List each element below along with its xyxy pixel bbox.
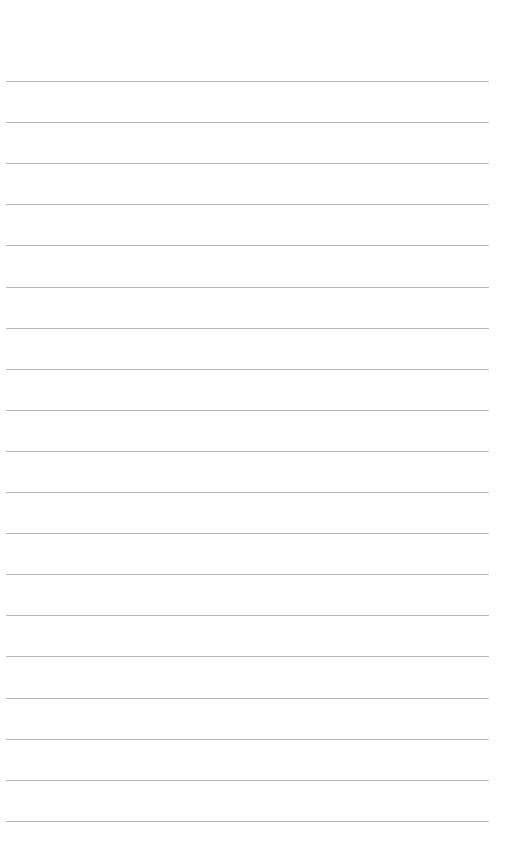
ruled-line <box>6 492 489 493</box>
ruled-line <box>6 533 489 534</box>
ruled-line <box>6 204 489 205</box>
ruled-line <box>6 615 489 616</box>
ruled-line <box>6 739 489 740</box>
ruled-line <box>6 328 489 329</box>
ruled-line <box>6 451 489 452</box>
ruled-line <box>6 574 489 575</box>
ruled-line <box>6 780 489 781</box>
ruled-line <box>6 656 489 657</box>
lined-page <box>0 0 517 867</box>
ruled-line <box>6 698 489 699</box>
ruled-line <box>6 245 489 246</box>
ruled-line <box>6 287 489 288</box>
ruled-line <box>6 821 489 822</box>
ruled-line <box>6 163 489 164</box>
ruled-line <box>6 369 489 370</box>
ruled-line <box>6 410 489 411</box>
ruled-line <box>6 81 489 82</box>
ruled-line <box>6 122 489 123</box>
